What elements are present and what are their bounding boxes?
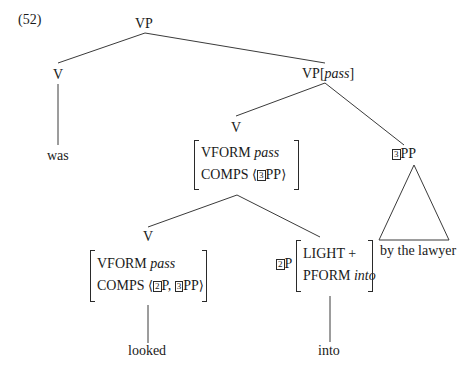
node-vp-root: VP: [135, 16, 153, 32]
node-p: 2P: [276, 256, 292, 272]
node-vp-pass: VP[pass]: [302, 66, 354, 82]
node-pp: 3PP: [392, 146, 416, 162]
tag-3: 3: [257, 170, 266, 181]
avm-mid-left-bracket: [194, 140, 199, 190]
node-v-aux: V: [53, 67, 63, 83]
vp-pass-cat: VP: [302, 66, 320, 81]
avm-mid-right-bracket: [294, 140, 299, 190]
avm-mid-row-comps: COMPS ⟨3PP⟩: [201, 167, 286, 183]
avm-p-right-bracket: [368, 240, 373, 292]
avm-p-row-pform: PFORM into: [303, 268, 376, 284]
leaf-was: was: [47, 148, 69, 164]
avm-low: VFORM pass COMPS ⟨2P, 3PP⟩: [90, 250, 208, 302]
avm-low-right-bracket: [202, 250, 207, 302]
tag-3: 3: [392, 149, 401, 160]
example-number: (52): [18, 12, 41, 28]
avm-low-left-bracket: [90, 250, 95, 302]
tag-2: 2: [153, 281, 162, 292]
avm-mid: VFORM pass COMPS ⟨3PP⟩: [194, 140, 304, 190]
vp-pass-feature: pass: [325, 66, 350, 81]
avm-p-left-bracket: [296, 240, 301, 292]
tag-3: 3: [175, 281, 184, 292]
leaf-looked: looked: [128, 343, 166, 359]
tag-2: 2: [276, 259, 285, 270]
avm-low-row-vform: VFORM pass: [97, 256, 175, 272]
leaf-into: into: [318, 343, 340, 359]
avm-mid-row-vform: VFORM pass: [201, 145, 279, 161]
avm-p-row-light: LIGHT +: [303, 246, 356, 262]
node-v-low: V: [143, 229, 153, 245]
avm-low-row-comps: COMPS ⟨2P, 3PP⟩: [97, 278, 204, 294]
node-v-mid: V: [231, 120, 241, 136]
leaf-by-the-lawyer: by the lawyer: [380, 243, 456, 259]
avm-p: LIGHT + PFORM into: [296, 240, 376, 292]
